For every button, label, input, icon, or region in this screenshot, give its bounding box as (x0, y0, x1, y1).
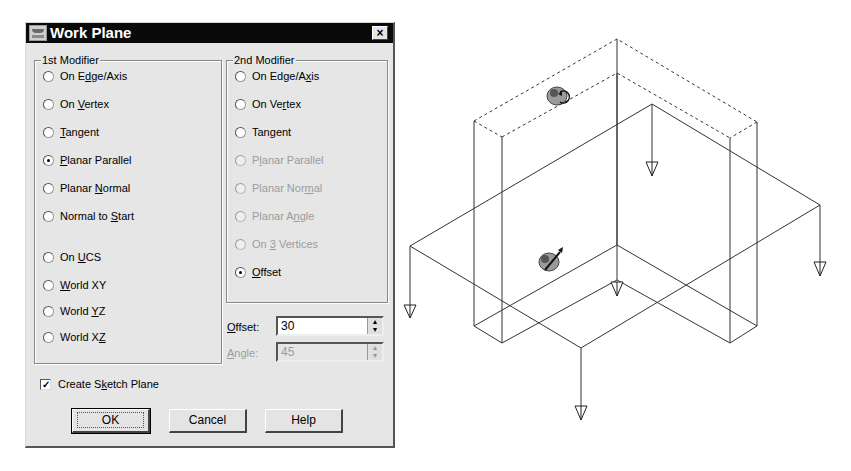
first-modifier-option[interactable]: World XZ (43, 329, 106, 345)
second-modifier-option[interactable]: Tangent (235, 124, 291, 140)
offset-up-button[interactable]: ▲ (368, 318, 382, 326)
cancel-button[interactable]: Cancel (169, 409, 247, 433)
second-modifier-option[interactable]: On Vertex (235, 96, 301, 112)
second-modifier-label: 2nd Modifier (233, 53, 296, 67)
radio-button[interactable] (43, 127, 54, 138)
arrow-down-icon (575, 406, 587, 420)
radio-button[interactable] (43, 71, 54, 82)
second-modifier-option[interactable]: Planar Angle (235, 208, 314, 224)
radio-button[interactable] (43, 332, 54, 343)
help-button[interactable]: Help (265, 409, 343, 433)
radio-button[interactable] (235, 155, 246, 166)
offset-label: Offset: (227, 319, 259, 335)
dialog-title: Work Plane (50, 24, 131, 42)
first-modifier-option[interactable]: On Edge/Axis (43, 68, 127, 84)
radio-button[interactable] (43, 99, 54, 110)
radio-button[interactable] (43, 155, 54, 166)
second-modifier-option[interactable]: On 3 Vertices (235, 236, 318, 252)
first-modifier-option[interactable]: Tangent (43, 124, 99, 140)
direction-markers (404, 162, 826, 420)
radio-button[interactable] (235, 99, 246, 110)
angle-up-button[interactable]: ▲ (368, 344, 382, 352)
ok-button[interactable]: OK (72, 409, 150, 433)
angle-label: Angle: (227, 345, 258, 361)
3d-viewport[interactable] (400, 0, 851, 471)
offset-spinner[interactable]: 30 ▲ ▼ (276, 316, 384, 336)
first-modifier-group: 1st Modifier On Edge/AxisOn VertexTangen… (34, 60, 222, 364)
radio-button[interactable] (43, 306, 54, 317)
first-modifier-option[interactable]: World XY (43, 277, 106, 293)
create-sketch-plane-checkbox[interactable]: ✓Create Sketch Plane (40, 376, 159, 392)
second-modifier-option[interactable]: On Edge/Axis (235, 68, 319, 84)
rotate-handle-icon[interactable] (547, 87, 569, 105)
first-modifier-option[interactable]: Planar Normal (43, 180, 130, 196)
second-modifier-option[interactable]: Planar Parallel (235, 152, 324, 168)
second-modifier-option[interactable]: Offset (235, 264, 281, 280)
arrow-down-icon (404, 305, 416, 318)
first-modifier-option[interactable]: World YZ (43, 303, 105, 319)
angle-spinner[interactable]: 45 ▲ ▼ (276, 342, 384, 362)
radio-button[interactable] (235, 183, 246, 194)
radio-button[interactable] (235, 71, 246, 82)
title-bar[interactable]: Work Plane × (26, 23, 393, 43)
close-button[interactable]: × (372, 26, 388, 40)
app-icon (29, 25, 47, 41)
offset-handle-icon[interactable] (539, 247, 563, 271)
radio-button[interactable] (43, 252, 54, 263)
hidden-top-edges (474, 39, 757, 138)
second-modifier-group: 2nd Modifier On Edge/AxisOn VertexTangen… (226, 60, 388, 303)
radio-button[interactable] (235, 127, 246, 138)
radio-button[interactable] (43, 211, 54, 222)
arrow-down-icon (814, 262, 826, 276)
work-plane-dialog: Work Plane × 1st Modifier On Edge/AxisOn… (25, 22, 395, 448)
arrow-down-icon (646, 162, 658, 176)
second-modifier-option[interactable]: Planar Normal (235, 180, 322, 196)
first-modifier-label: 1st Modifier (41, 53, 100, 67)
angle-down-button[interactable]: ▼ (368, 352, 382, 360)
offset-down-button[interactable]: ▼ (368, 326, 382, 334)
radio-button[interactable] (235, 267, 246, 278)
radio-button[interactable] (43, 183, 54, 194)
arrow-down-icon (611, 282, 623, 296)
checkbox-box[interactable]: ✓ (40, 379, 51, 390)
angle-value[interactable]: 45 (281, 345, 294, 360)
first-modifier-option[interactable]: On UCS (43, 249, 101, 265)
radio-button[interactable] (43, 280, 54, 291)
first-modifier-option[interactable]: Planar Parallel (43, 152, 132, 168)
first-modifier-option[interactable]: Normal to Start (43, 208, 134, 224)
first-modifier-option[interactable]: On Vertex (43, 96, 109, 112)
radio-button[interactable] (235, 211, 246, 222)
radio-button[interactable] (235, 239, 246, 250)
offset-value[interactable]: 30 (281, 319, 294, 334)
